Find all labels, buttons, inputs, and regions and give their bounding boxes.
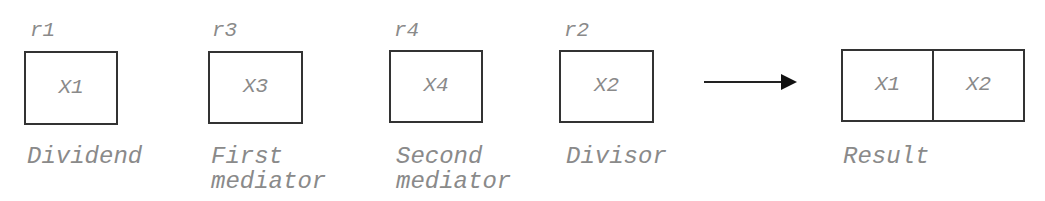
caption-second-mediator: Second mediator [396,144,511,194]
register-label-r1: r1 [30,20,55,41]
register-value-x4: X4 [423,75,448,96]
register-label-r2: r2 [564,20,589,41]
register-box-r4: X4 [389,50,483,123]
caption-dividend: Dividend [27,144,142,169]
result-cell-high: X1 [843,51,932,120]
register-value-x2: X2 [594,75,619,96]
right-arrow-icon [700,70,800,94]
register-value-x3: X3 [243,76,268,97]
caption-divisor: Divisor [566,144,667,169]
register-box-r3: X3 [208,51,303,124]
register-value-x1: X1 [58,77,83,98]
result-cell-low: X2 [932,51,1023,120]
caption-result: Result [843,144,929,169]
register-label-r4: r4 [394,20,419,41]
result-register: X1 X2 [841,49,1025,122]
result-value-x1: X1 [875,74,900,95]
caption-first-mediator: First mediator [211,144,326,194]
register-box-r1: X1 [24,51,118,125]
register-box-r2: X2 [559,50,654,123]
result-value-x2: X2 [966,74,991,95]
register-label-r3: r3 [212,20,237,41]
